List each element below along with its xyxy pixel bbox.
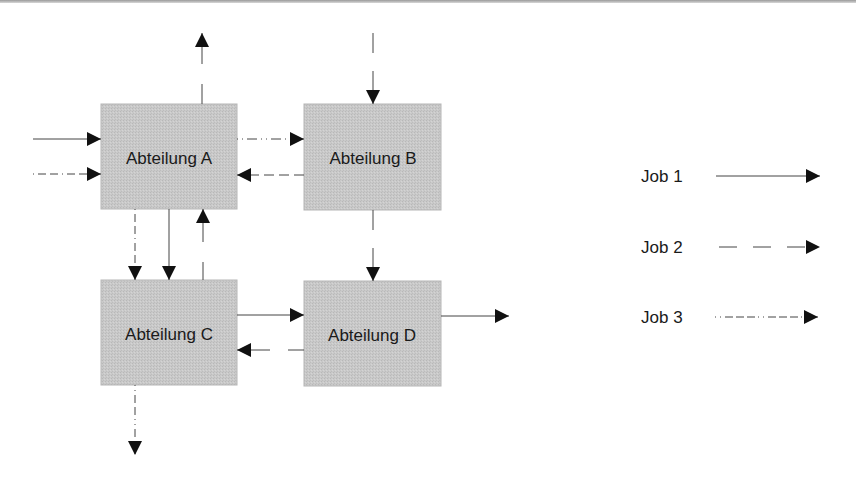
box-abteilung-b: Abteilung B: [304, 104, 441, 210]
box-abteilung-c: Abteilung C: [101, 280, 237, 385]
box-abteilung-d: Abteilung D: [304, 281, 441, 386]
material-flow-diagram: Abteilung A Abteilung B Abteilung C Abte…: [0, 0, 856, 482]
legend-label-job3: Job 3: [641, 308, 683, 327]
box-label: Abteilung B: [330, 149, 417, 168]
box-label: Abteilung C: [125, 325, 213, 344]
legend-label-job2: Job 2: [641, 238, 683, 257]
box-abteilung-a: Abteilung A: [101, 104, 237, 209]
box-label: Abteilung A: [126, 149, 213, 168]
box-label: Abteilung D: [328, 326, 416, 345]
legend: Job 1 Job 2 Job 3: [641, 167, 683, 327]
legend-label-job1: Job 1: [641, 167, 683, 186]
